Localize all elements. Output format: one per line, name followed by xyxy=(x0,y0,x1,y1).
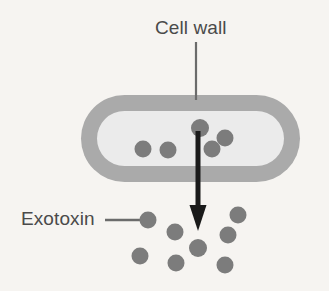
arrow-shaft xyxy=(196,131,201,207)
toxin-dot xyxy=(217,130,234,147)
exotoxin-label: Exotoxin xyxy=(21,209,95,228)
toxin-dot xyxy=(160,142,177,159)
toxin-dot xyxy=(167,224,184,241)
toxin-dot xyxy=(220,227,237,244)
cell-interior-shape xyxy=(97,111,284,166)
cell-wall-label: Cell wall xyxy=(155,18,227,37)
toxin-dot xyxy=(135,141,152,158)
diagram-canvas xyxy=(0,0,329,291)
toxin-dot xyxy=(168,255,185,272)
exotoxin-secretion-diagram: Cell wall Exotoxin xyxy=(0,0,329,291)
toxin-dot xyxy=(204,141,221,158)
toxin-dot xyxy=(230,207,247,224)
toxin-dot xyxy=(140,212,157,229)
toxin-dot xyxy=(189,239,207,257)
arrow-head xyxy=(190,205,207,231)
toxin-dots-outside-cell xyxy=(132,207,247,274)
toxin-dot xyxy=(217,257,234,274)
toxin-dot xyxy=(132,248,149,265)
